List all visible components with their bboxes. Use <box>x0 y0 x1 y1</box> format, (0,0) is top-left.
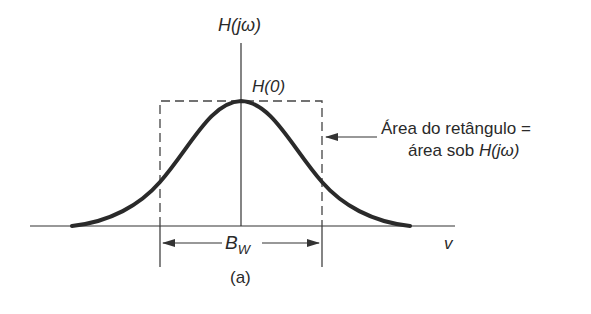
annotation-line-1: Área do retângulo = <box>381 119 531 139</box>
x-axis-label: v <box>444 234 453 254</box>
arrowhead-left-icon <box>162 239 175 247</box>
figure-caption: (a) <box>230 268 251 288</box>
arrowhead-right-icon <box>307 239 320 247</box>
annotation-line-2: área sob H(jω) <box>408 141 520 161</box>
bandwidth-label: BW <box>225 232 250 257</box>
peak-label: H(0) <box>252 77 285 97</box>
y-axis-label: H(jω) <box>218 15 261 36</box>
arrowhead-annotation-icon <box>325 133 338 141</box>
